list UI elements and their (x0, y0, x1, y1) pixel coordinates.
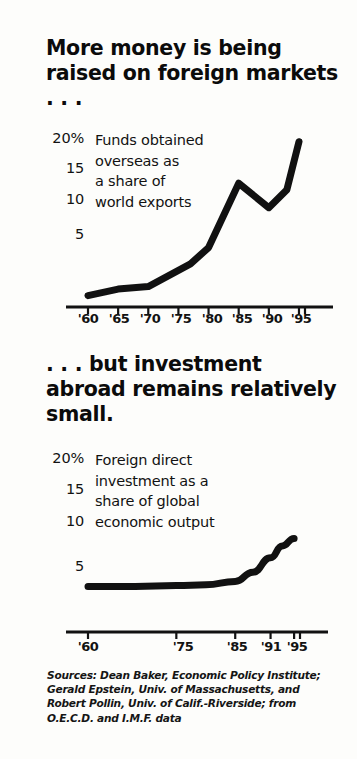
chart1-x-tick-80: '80 (202, 312, 223, 325)
panel-one-headline: More money is being raised on foreign ma… (46, 36, 346, 111)
chart1-x-tick-85: '85 (232, 312, 253, 325)
chart-funds-obtained-overseas: 20% 15 10 5 Funds obtained overseas as a… (0, 120, 357, 330)
chart2-plot-area (0, 443, 357, 648)
chart2-x-tick-91: '91 (261, 640, 282, 653)
chart2-x-tick-95: '95 (287, 640, 308, 653)
chart2-x-tick-85: '85 (227, 640, 248, 653)
chart-foreign-direct-investment: 20% 15 10 5 Foreign direct investment as… (0, 443, 357, 658)
chart1-x-tick-60: '60 (78, 312, 99, 325)
sources-note: Sources: Dean Baker, Economic Policy Ins… (47, 668, 327, 725)
chart1-x-tick-90: '90 (262, 312, 283, 325)
infographic-page: More money is being raised on foreign ma… (0, 0, 357, 759)
chart2-x-tick-60: '60 (78, 640, 99, 653)
chart1-plot-area (0, 120, 357, 320)
chart1-x-tick-65: '65 (109, 312, 130, 325)
chart1-x-tick-95: '95 (291, 312, 312, 325)
chart2-x-tick-75: '75 (173, 640, 194, 653)
chart1-x-tick-70: '70 (140, 312, 161, 325)
panel-two-headline: . . . but investment abroad remains rela… (46, 352, 346, 427)
chart1-x-tick-75: '75 (171, 312, 192, 325)
